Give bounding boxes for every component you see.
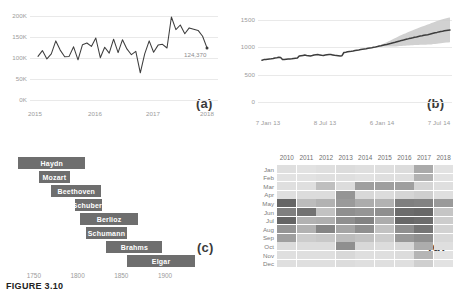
heatmap-cell [434, 199, 453, 207]
chart-panel-d: (d) 201020112012201320142015201620172018… [230, 145, 461, 290]
heatmap-row-apr: Apr [250, 191, 274, 198]
heatmap-col-2015: 2015 [375, 154, 395, 161]
heatmap-row-jan: Jan [250, 166, 274, 173]
heatmap-cell [277, 199, 296, 207]
heatmap-cell [414, 260, 433, 268]
heatmap-col-2012: 2012 [316, 154, 336, 161]
heatmap-cell [355, 217, 374, 225]
chart-panel-a: (a) 200K150K100K50K0K 2015201620172018 1… [0, 0, 230, 145]
heatmap-cell [316, 234, 335, 242]
heatmap-row-feb: Feb [250, 174, 274, 181]
heatmap-cell [375, 208, 394, 216]
heatmap-col-2017: 2017 [414, 154, 434, 161]
chart-panel-c: (c) HaydnMozartBeethovenSchubertBerliozS… [0, 145, 230, 290]
panel-c-xtick-3: 1900 [154, 272, 176, 279]
heatmap-cell [316, 165, 335, 173]
heatmap-cell [395, 208, 414, 216]
chart-panel-b: (b) 150010005000 7 Jan 138 Jul 136 Jan 1… [230, 0, 461, 145]
heatmap-col-2018: 2018 [434, 154, 454, 161]
heatmap-row-oct: Oct [250, 243, 274, 250]
heatmap-cell [297, 199, 316, 207]
heatmap-cell [414, 182, 433, 190]
heatmap-cell [297, 165, 316, 173]
heatmap-cell [316, 174, 335, 182]
heatmap-cell [336, 251, 355, 259]
heatmap-cell [414, 174, 433, 182]
heatmap-cell [375, 182, 394, 190]
heatmap-row-sep: Sep [250, 234, 274, 241]
heatmap-cell [395, 225, 414, 233]
heatmap-cell [316, 199, 335, 207]
heatmap-cell [375, 260, 394, 268]
panel-c-label: (c) [197, 240, 214, 255]
heatmap-cell [414, 165, 433, 173]
heatmap-cell [277, 174, 296, 182]
heatmap-cell [297, 191, 316, 199]
heatmap-cell [297, 182, 316, 190]
heatmap-cell [316, 182, 335, 190]
heatmap-col-2011: 2011 [297, 154, 317, 161]
gantt-bar-haydn: Haydn [18, 157, 85, 169]
heatmap-cell [375, 242, 394, 250]
heatmap-row-mar: Mar [250, 183, 274, 190]
heatmap-cell [395, 174, 414, 182]
heatmap-cell [277, 217, 296, 225]
heatmap-cell [277, 208, 296, 216]
heatmap-cell [316, 225, 335, 233]
heatmap-cell [316, 242, 335, 250]
heatmap-cell [434, 208, 453, 216]
heatmap-cell [414, 234, 433, 242]
heatmap-cell [434, 165, 453, 173]
heatmap-cell [277, 182, 296, 190]
heatmap-cell [395, 191, 414, 199]
heatmap-cell [277, 234, 296, 242]
panel-c-xtick-0: 1750 [23, 272, 45, 279]
panel-a-line-series [0, 0, 230, 145]
heatmap-row-aug: Aug [250, 226, 274, 233]
heatmap-cell [355, 174, 374, 182]
heatmap-cell [297, 242, 316, 250]
heatmap-cell [355, 191, 374, 199]
heatmap-cell [336, 217, 355, 225]
heatmap-cell [395, 234, 414, 242]
heatmap-col-2014: 2014 [355, 154, 375, 161]
heatmap-cell [434, 251, 453, 259]
heatmap-cell [395, 199, 414, 207]
heatmap-cell [434, 260, 453, 268]
heatmap-cell [355, 182, 374, 190]
heatmap-cell [375, 191, 394, 199]
heatmap-cell [434, 217, 453, 225]
heatmap-cell [297, 174, 316, 182]
heatmap-cell [316, 260, 335, 268]
heatmap-cell [336, 260, 355, 268]
heatmap-cell [336, 225, 355, 233]
heatmap-cell [316, 208, 335, 216]
heatmap-cell [434, 234, 453, 242]
heatmap-cell [375, 174, 394, 182]
panel-a-value-annotation: 124,370 [184, 51, 206, 58]
heatmap-cell [316, 251, 335, 259]
heatmap-cell [395, 165, 414, 173]
heatmap-cell [297, 208, 316, 216]
heatmap-row-jul: Jul [250, 217, 274, 224]
heatmap-cell [277, 242, 296, 250]
heatmap-cell [297, 217, 316, 225]
heatmap-col-2016: 2016 [395, 154, 415, 161]
heatmap-cell [355, 165, 374, 173]
heatmap-row-may: May [250, 200, 274, 207]
heatmap-cell [375, 217, 394, 225]
gantt-bar-berlioz: Berlioz [80, 213, 138, 225]
heatmap-cell [355, 251, 374, 259]
heatmap-cell [414, 225, 433, 233]
heatmap-col-2010: 2010 [277, 154, 297, 161]
heatmap-cell [277, 251, 296, 259]
gantt-bar-brahms: Brahms [106, 241, 162, 253]
heatmap-cell [355, 225, 374, 233]
heatmap-cell [277, 191, 296, 199]
heatmap-cell [277, 260, 296, 268]
panel-c-xtick-2: 1850 [110, 272, 132, 279]
heatmap-cell [316, 217, 335, 225]
heatmap-cell [414, 251, 433, 259]
heatmap-cell [414, 242, 433, 250]
heatmap-cell [316, 191, 335, 199]
